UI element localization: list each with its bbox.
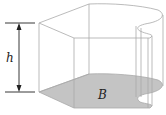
arrow-down-icon	[17, 85, 22, 92]
cylinder-diagram: h B	[0, 0, 166, 115]
base-label: B	[97, 88, 107, 102]
top-face	[39, 4, 162, 38]
height-label: h	[6, 51, 14, 65]
arrow-up-icon	[17, 23, 22, 30]
